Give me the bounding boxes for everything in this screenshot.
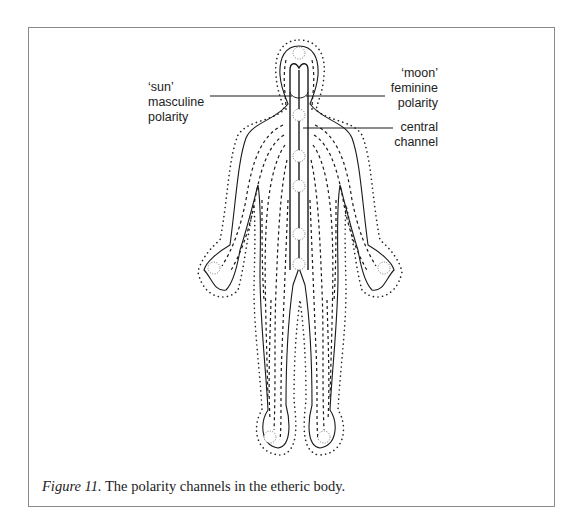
central-label-line1: central [386, 120, 438, 135]
caption-label: Figure 11. [42, 478, 102, 494]
central-channel-label: central channel [386, 120, 438, 150]
central-label-line2: channel [386, 135, 438, 150]
moon-label-line3: polarity [386, 96, 438, 111]
root-chakra-icon [293, 258, 305, 270]
caption-text: The polarity channels in the etheric bod… [102, 478, 346, 494]
right-palm-chakra-icon [378, 262, 390, 274]
etheric-body-diagram [0, 0, 585, 532]
throat-chakra-icon [293, 109, 305, 121]
solar-plexus-chakra-icon [293, 180, 305, 192]
heart-chakra-icon [293, 150, 305, 162]
figure-caption: Figure 11. The polarity channels in the … [42, 478, 345, 495]
moon-label: ‘moon’ feminine polarity [386, 66, 438, 111]
sacral-chakra-icon [293, 228, 305, 240]
sun-label-line2: masculine [148, 95, 204, 110]
sun-label-line1: ‘sun’ [148, 80, 204, 95]
sun-label-line3: polarity [148, 110, 204, 125]
right-foot-chakra-icon [318, 431, 330, 443]
left-foot-chakra-icon [264, 431, 276, 443]
moon-label-line2: feminine [386, 81, 438, 96]
moon-label-line1: ‘moon’ [386, 66, 438, 81]
crown-chakra-icon [293, 47, 305, 59]
left-palm-chakra-icon [208, 262, 220, 274]
sun-label: ‘sun’ masculine polarity [148, 80, 204, 125]
